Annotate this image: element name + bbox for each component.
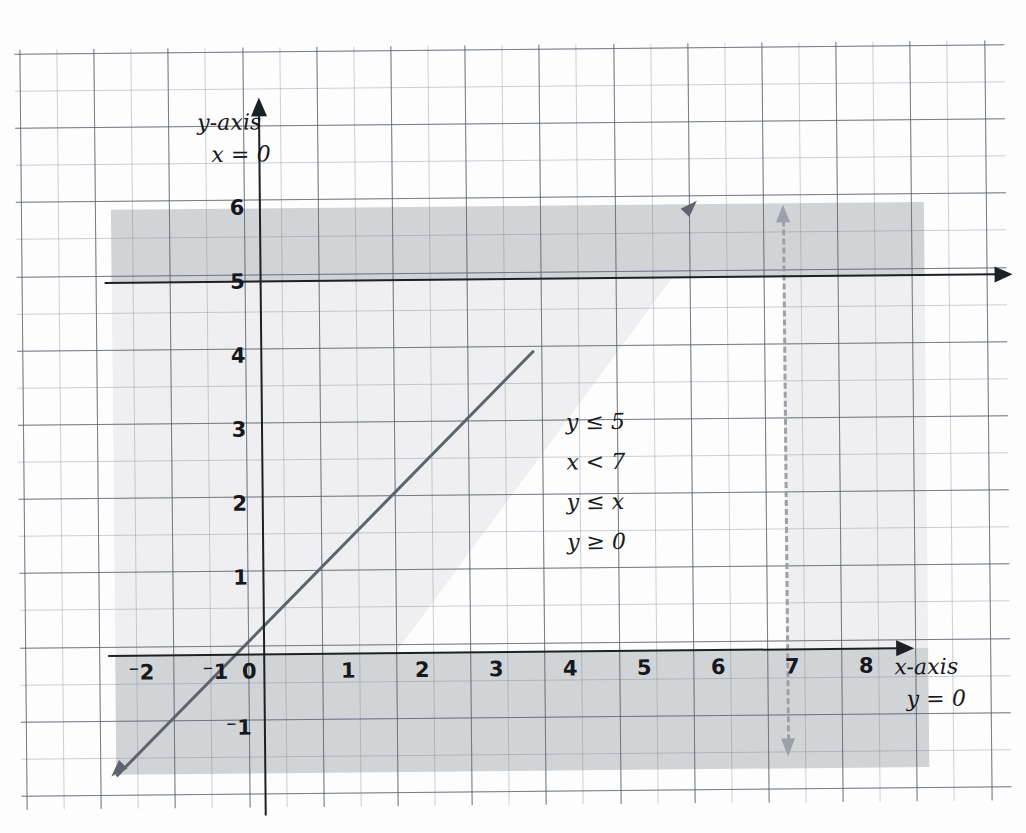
x-tick-label: 8 bbox=[851, 653, 881, 677]
x-axis-label-name: x-axis bbox=[894, 654, 958, 680]
y-tick-label: 3 bbox=[224, 417, 254, 441]
y-tick-label: ⁻1 bbox=[221, 715, 257, 739]
x-tick-label: 4 bbox=[555, 656, 585, 680]
graph-gridlines bbox=[14, 40, 1011, 809]
x-axis-label-equation: y = 0 bbox=[907, 686, 967, 712]
grid-paper-sheet: y-axis x = 0 x-axis y = 0 ⁻2 ⁻1 0 1 2 3 … bbox=[4, 25, 1024, 825]
y-tick-label: 5 bbox=[222, 270, 252, 294]
y-tick-label: 6 bbox=[222, 196, 252, 220]
x-tick-label: ⁻1 bbox=[200, 660, 230, 684]
inequality-annotation-list: y ≤ 5 x < 7 y ≤ x y ≥ 0 bbox=[566, 402, 626, 563]
x-tick-label: 5 bbox=[629, 656, 659, 680]
x-tick-label: 0 bbox=[234, 659, 264, 683]
line-y-equals-5-arrow-end bbox=[994, 266, 1012, 282]
x-tick-label: ⁻2 bbox=[126, 660, 156, 684]
line-x-equals-7-arrow-up bbox=[776, 204, 790, 222]
y-axis-label-name: y-axis bbox=[197, 109, 262, 135]
y-axis-label-text: y-axis bbox=[197, 109, 262, 135]
y-tick-label: 1 bbox=[225, 565, 255, 589]
inequality-item: y ≤ 5 bbox=[566, 402, 625, 443]
x-tick-label: 7 bbox=[777, 654, 807, 678]
y-tick-label: 4 bbox=[223, 343, 253, 367]
y-tick-label: 2 bbox=[225, 491, 255, 515]
inequality-item: y ≥ 0 bbox=[567, 522, 626, 563]
inequality-item: y ≤ x bbox=[567, 482, 626, 523]
x-axis-label-text: x-axis bbox=[894, 654, 958, 680]
y-axis-label-equation: x = 0 bbox=[211, 141, 271, 167]
graph-plot-area: y-axis x = 0 x-axis y = 0 ⁻2 ⁻1 0 1 2 3 … bbox=[14, 40, 1011, 809]
x-tick-label: 2 bbox=[407, 658, 437, 682]
x-tick-label: 6 bbox=[703, 655, 733, 679]
x-tick-label: 3 bbox=[481, 657, 511, 681]
x-axis-equation-text: y = 0 bbox=[907, 686, 967, 712]
line-x-equals-7-arrow-down bbox=[781, 738, 795, 756]
figure-canvas: y-axis x = 0 x-axis y = 0 ⁻2 ⁻1 0 1 2 3 … bbox=[0, 0, 1026, 833]
y-axis-equation-text: x = 0 bbox=[211, 141, 271, 167]
x-tick-label: 1 bbox=[333, 658, 363, 682]
inequality-item: x < 7 bbox=[566, 442, 625, 483]
